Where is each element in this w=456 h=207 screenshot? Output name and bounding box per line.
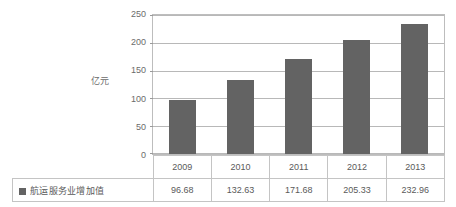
bar-2012 — [343, 40, 370, 154]
y-axis-tick-label: 100 — [118, 95, 146, 104]
bar-slot — [211, 15, 269, 154]
table-cell-value: 96.68 — [153, 179, 211, 202]
bar-2010 — [227, 80, 254, 154]
legend-entry: 航运服务业增加值 — [13, 179, 154, 202]
bar-chart-figure: 亿元 250 200 150 100 50 0 2009 2010 2011 2… — [0, 0, 456, 207]
table-cell-year: 2010 — [211, 156, 269, 179]
legend-swatch-icon — [19, 188, 26, 195]
bar-slot — [386, 15, 444, 154]
table-cell-year: 2011 — [270, 156, 328, 179]
table-row-years: 2009 2010 2011 2012 2013 — [13, 156, 445, 179]
bar-slot — [269, 15, 327, 154]
data-table: 2009 2010 2011 2012 2013 航运服务业增加值 96.68 … — [12, 155, 445, 202]
table-cell-value: 132.63 — [211, 179, 269, 202]
table-cell-value: 171.68 — [270, 179, 328, 202]
table-cell-year: 2013 — [386, 156, 444, 179]
legend-label: 航运服务业增加值 — [30, 184, 104, 197]
bar-2011 — [285, 59, 312, 154]
y-axis-tick-label: 50 — [118, 123, 146, 132]
bar-2009 — [169, 100, 196, 154]
y-axis-title: 亿元 — [80, 74, 120, 87]
table-cell-year: 2012 — [328, 156, 386, 179]
y-axis-tick-label: 200 — [118, 38, 146, 47]
bar-slot — [153, 15, 211, 154]
y-axis-tick-label: 250 — [118, 10, 146, 19]
y-axis-tick-label: 150 — [118, 66, 146, 75]
table-cell-value: 205.33 — [328, 179, 386, 202]
table-corner-cell — [13, 156, 154, 179]
plot-area — [152, 14, 445, 155]
table-cell-value: 232.96 — [386, 179, 444, 202]
bars-group — [153, 15, 444, 154]
table-cell-year: 2009 — [153, 156, 211, 179]
bar-slot — [328, 15, 386, 154]
bar-2013 — [401, 24, 428, 154]
table-row-values: 航运服务业增加值 96.68 132.63 171.68 205.33 232.… — [13, 179, 445, 202]
